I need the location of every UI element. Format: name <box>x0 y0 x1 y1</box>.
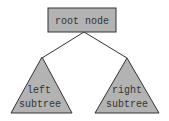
edge-root-right <box>84 32 127 58</box>
right-subtree: right subtree <box>95 58 159 113</box>
right-subtree-label-line1: right <box>112 85 142 96</box>
left-subtree: left subtree <box>11 57 72 113</box>
edge-root-left <box>42 32 84 58</box>
tree-diagram: root node left subtree right subtree <box>0 0 169 121</box>
right-subtree-label-line2: subtree <box>106 99 148 110</box>
root-node: root node <box>48 8 116 32</box>
left-subtree-label-line2: subtree <box>19 99 61 110</box>
left-subtree-label-line1: left <box>27 85 51 96</box>
root-node-label: root node <box>55 16 109 27</box>
